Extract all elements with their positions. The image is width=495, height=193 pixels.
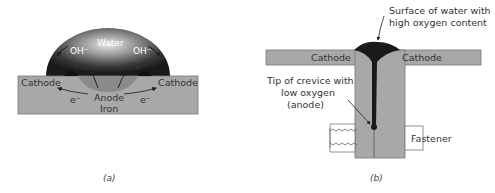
anode-label: Anode xyxy=(94,92,124,103)
water-label: Water xyxy=(97,38,124,48)
caption-b: (b) xyxy=(370,173,383,183)
iron-label: Iron xyxy=(100,103,118,114)
fe-label-left: Fe²⁺ xyxy=(75,61,95,72)
tip-label-line3: (anode) xyxy=(287,99,324,110)
figure-a: Water OH⁻ OH⁻ Fe²⁺ Fe²⁺ Cathode Cathode … xyxy=(18,28,198,183)
electron-label-right: e⁻ xyxy=(140,94,151,105)
cathode-label-right-b: Cathode xyxy=(402,52,442,63)
plate-vertical xyxy=(355,50,405,158)
corrosion-diagram: Water OH⁻ OH⁻ Fe²⁺ Fe²⁺ Cathode Cathode … xyxy=(0,0,495,193)
fastener-left xyxy=(330,124,355,152)
cathode-label-right: Cathode xyxy=(158,77,198,88)
fastener-label: Fastener xyxy=(411,133,452,144)
cathode-label-left: Cathode xyxy=(21,77,61,88)
oh-label-left: OH⁻ xyxy=(70,46,89,56)
surface-label-line2: high oxygen content xyxy=(389,17,487,28)
figure-b: Surface of water with high oxygen conten… xyxy=(266,5,491,183)
cathode-label-left-b: Cathode xyxy=(311,52,351,63)
tip-label-line1: Tip of crevice with xyxy=(266,75,354,86)
fe-label-right: Fe²⁺ xyxy=(130,61,150,72)
caption-a: (a) xyxy=(103,173,116,183)
surface-label-line1: Surface of water with xyxy=(389,5,491,16)
oh-label-right: OH⁻ xyxy=(133,46,152,56)
crevice-tip-dot xyxy=(371,124,377,130)
tip-label-line2: low oxygen xyxy=(281,87,335,98)
surface-pointer xyxy=(378,16,384,40)
electron-label-left: e⁻ xyxy=(70,94,81,105)
